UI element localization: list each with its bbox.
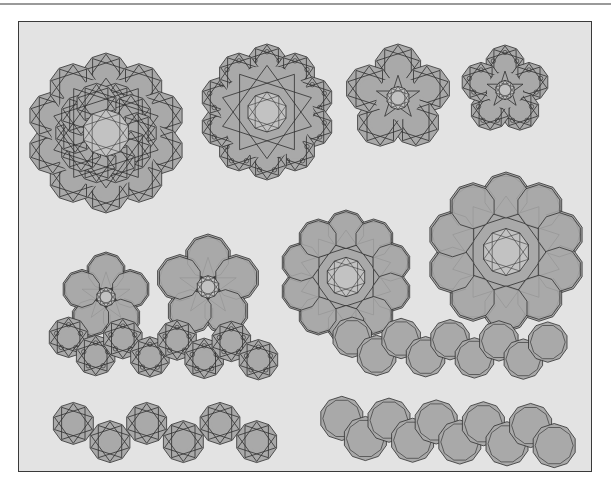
strip-stars-circles (49, 317, 277, 380)
rosette-5fold-small (462, 45, 548, 130)
pattern-figure (0, 0, 611, 493)
rosette-10fold-circles (202, 44, 331, 180)
rosette-10fold-decagon-ring-large (430, 172, 582, 332)
strip-stars-wavy (53, 402, 276, 462)
strip-decagons (333, 317, 567, 379)
rosette-10fold-large-stars (30, 53, 182, 213)
rosette-5petal-decagons (158, 234, 259, 334)
rosette-5lobe-cluster (347, 44, 450, 146)
strip-decagons-staggered (321, 396, 575, 467)
